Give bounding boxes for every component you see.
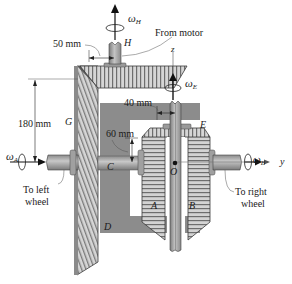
label-omega-A: ωA <box>6 150 19 164</box>
label-omega-H: ωH <box>128 12 142 26</box>
label-40mm: 40 mm <box>124 97 152 108</box>
shaft-C <box>98 156 140 170</box>
differential-diagram: 50 mm 180 mm 40 mm 60 mm From motor To l… <box>0 0 292 284</box>
right-axle <box>213 155 242 170</box>
label-to-right-1: To right <box>235 186 267 197</box>
label-D: D <box>103 221 112 232</box>
label-50mm: 50 mm <box>53 38 81 49</box>
label-to-left-2: wheel <box>25 196 49 207</box>
label-E: E <box>199 119 206 130</box>
label-from-motor: From motor <box>155 27 204 38</box>
label-y-axis: y <box>279 156 285 167</box>
point-O <box>173 161 178 166</box>
label-omega-E: ωE <box>185 77 198 91</box>
label-60mm: 60 mm <box>106 128 134 139</box>
label-omega-B: ωB <box>253 153 266 167</box>
label-A: A <box>150 200 158 211</box>
label-C: C <box>107 161 114 172</box>
label-to-right-2: wheel <box>241 198 265 209</box>
label-G: G <box>65 116 72 127</box>
label-O: O <box>170 166 177 177</box>
omega-H-arrow <box>106 4 124 40</box>
ring-gear-G <box>74 66 98 275</box>
side-gear-B <box>188 129 215 240</box>
right-wheel-leader <box>225 170 234 192</box>
shaft-H <box>109 42 121 64</box>
label-z-axis: z <box>170 44 175 54</box>
left-axle <box>47 150 79 175</box>
left-wheel-leader <box>58 170 64 184</box>
label-B: B <box>189 200 195 211</box>
label-to-left-1: To left <box>23 184 49 195</box>
label-180mm: 180 mm <box>18 118 51 129</box>
label-H: H <box>123 37 132 48</box>
